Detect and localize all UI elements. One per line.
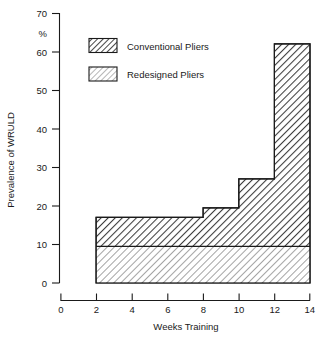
x-tick-label-6: 6 xyxy=(165,304,170,315)
x-tick-label-12: 12 xyxy=(269,304,280,315)
step-chart-svg: 70 60 50 40 30 20 10 0 % Prevalence of W… xyxy=(0,0,327,337)
y-tick-label-70: 70 xyxy=(36,8,47,19)
y-tick-label-50: 50 xyxy=(36,85,47,96)
y-tick-label-0: 0 xyxy=(42,278,47,289)
x-tick-label-8: 8 xyxy=(201,304,206,315)
legend-label-redesigned-pliers: Redesigned Pliers xyxy=(127,69,204,80)
y-tick-label-20: 20 xyxy=(36,201,47,212)
legend-item-conventional-pliers: Conventional Pliers xyxy=(89,39,209,53)
y-axis-unit-label: % xyxy=(39,28,48,39)
y-tick-label-40: 40 xyxy=(36,124,47,135)
chart-figure: 70 60 50 40 30 20 10 0 % Prevalence of W… xyxy=(0,0,327,337)
y-tick-label-60: 60 xyxy=(36,47,47,58)
x-tick-label-10: 10 xyxy=(234,304,245,315)
legend-label-conventional-pliers: Conventional Pliers xyxy=(127,41,209,52)
x-tick-label-14: 14 xyxy=(305,304,316,315)
legend-item-redesigned-pliers: Redesigned Pliers xyxy=(89,67,204,81)
x-tick-label-4: 4 xyxy=(130,304,135,315)
x-axis: 0 2 4 6 8 10 12 14 Weeks Training xyxy=(58,294,315,333)
series-redesigned-pliers xyxy=(97,246,310,282)
x-axis-title: Weeks Training xyxy=(153,321,218,332)
y-axis: 70 60 50 40 30 20 10 0 % Prevalence of W… xyxy=(5,8,60,289)
chart-legend: Conventional Pliers Redesigned Pliers xyxy=(89,39,209,82)
x-tick-label-0: 0 xyxy=(58,304,63,315)
y-tick-label-30: 30 xyxy=(36,162,47,173)
y-tick-label-10: 10 xyxy=(36,239,47,250)
y-axis-title: Prevalence of WRULD xyxy=(5,112,16,208)
x-tick-label-2: 2 xyxy=(94,304,99,315)
legend-swatch-redesigned-pliers xyxy=(89,67,117,81)
legend-swatch-conventional-pliers xyxy=(89,39,117,53)
